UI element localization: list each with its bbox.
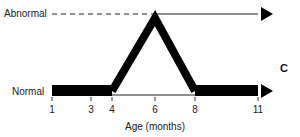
arrowhead-abnormal [261, 7, 273, 21]
x-tick-label: 4 [109, 104, 115, 115]
normal-label: Normal [12, 86, 44, 97]
x-tick-label: 3 [88, 104, 94, 115]
x-tick-label: 11 [253, 104, 264, 115]
x-axis-label: Age (months) [125, 121, 185, 132]
x-tick-label: 1 [49, 104, 55, 115]
arrowhead-normal [261, 84, 273, 98]
x-tick-label: 8 [192, 104, 198, 115]
panel-label: C [280, 62, 288, 74]
diagram: Abnormal Normal 1346811 Age (months) C [0, 0, 300, 137]
normal-thick-bar-early [52, 85, 112, 96]
x-tick-label: 6 [152, 104, 158, 115]
abnormal-label: Abnormal [4, 8, 47, 19]
abnormal-episode-triangle [112, 18, 195, 91]
normal-thick-bar-late [195, 85, 258, 96]
